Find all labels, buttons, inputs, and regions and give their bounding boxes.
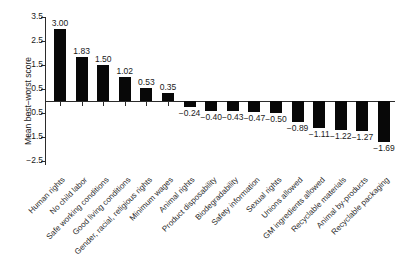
x-tick	[146, 102, 147, 106]
bar	[162, 93, 174, 101]
x-tick	[125, 102, 126, 106]
bar	[270, 101, 282, 113]
bar-chart-figure: Mean best–worst score 3.52.51.50.5−0.5−1…	[0, 0, 416, 262]
x-tick	[60, 102, 61, 106]
bar	[54, 29, 66, 101]
y-tick-label: −1.5	[1, 131, 43, 141]
y-tick-label: 3.5	[1, 11, 43, 21]
bar	[356, 101, 368, 131]
y-tick-label: −0.5	[1, 107, 43, 117]
bar	[227, 101, 239, 111]
bar-value-label: 3.00	[40, 18, 80, 28]
plot-area: 3.52.51.50.5−0.5−1.5−2.5 3.001.831.501.0…	[45, 14, 395, 168]
y-tick-label: 1.5	[1, 59, 43, 69]
x-tick	[168, 102, 169, 106]
bar-value-label: −1.27	[342, 132, 382, 142]
bar	[335, 101, 347, 130]
bar-value-label: 1.50	[83, 54, 123, 64]
bar-value-label: 1.02	[105, 66, 145, 76]
y-axis-line	[45, 17, 46, 165]
y-tick-label: 0.5	[1, 83, 43, 93]
bar-value-label: 0.35	[148, 82, 188, 92]
bar	[184, 101, 196, 107]
bar-value-label: −1.69	[364, 143, 404, 153]
y-tick-label: −2.5	[1, 155, 43, 165]
x-tick	[82, 102, 83, 106]
y-tick-label: 2.5	[1, 35, 43, 45]
x-tick	[103, 102, 104, 106]
bar	[248, 101, 260, 112]
